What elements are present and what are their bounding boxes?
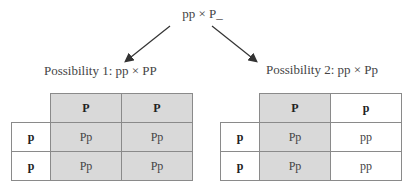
row-header: p — [12, 123, 51, 152]
punnett-square-1: P P p Pp Pp p Pp Pp — [11, 93, 193, 181]
arrow-left — [126, 26, 170, 61]
col-header: P — [51, 94, 122, 123]
corner-cell — [221, 94, 260, 123]
col-header: P — [122, 94, 193, 123]
col-header: P — [260, 94, 331, 123]
arrow-right — [212, 26, 256, 61]
genotype-cell: Pp — [122, 123, 193, 152]
genotype-cell: Pp — [51, 123, 122, 152]
genotype-cell: Pp — [260, 123, 331, 152]
genotype-cell: Pp — [122, 152, 193, 181]
possibility-1-label: Possibility 1: pp × PP — [44, 63, 157, 79]
punnett-square-2: P p p Pp pp p Pp pp — [220, 93, 402, 181]
genotype-cell: pp — [331, 123, 402, 152]
genotype-cell: Pp — [51, 152, 122, 181]
possibility-2-label: Possibility 2: pp × Pp — [266, 62, 378, 78]
col-header: p — [331, 94, 402, 123]
genotype-cell: pp — [331, 152, 402, 181]
row-header: p — [221, 123, 260, 152]
genotype-cell: Pp — [260, 152, 331, 181]
corner-cell — [12, 94, 51, 123]
row-header: p — [221, 152, 260, 181]
row-header: p — [12, 152, 51, 181]
